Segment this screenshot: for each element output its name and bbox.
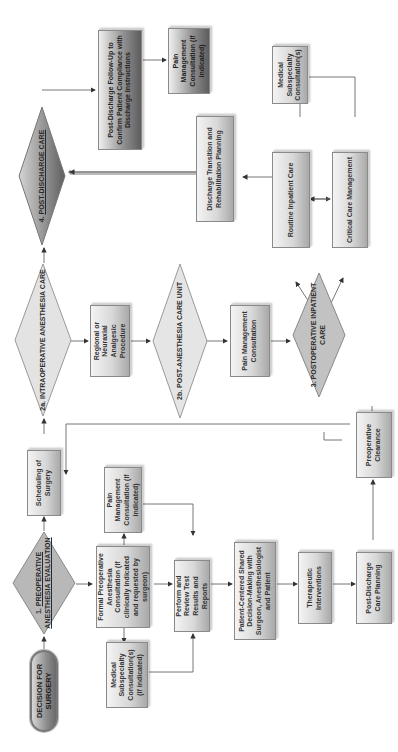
- phase-2b-post-anesthesia-care-unit: 2b. POST-ANESTHESIA CARE UNIT: [152, 263, 208, 419]
- therapeutic-interventions-box: Therapeutic Interventions: [298, 552, 332, 624]
- phase-4-post-discharge-care: 4. POST-DISCHARGE CARE: [18, 106, 66, 246]
- flowchart-canvas: DECISION FOR SURGERY 1. PREOPERATIVE ANE…: [0, 0, 398, 752]
- regional-neuraxial-procedure-box: Regional or Neuraxial Analgesic Procedur…: [90, 305, 130, 377]
- phase-2a-intraoperative-care: 2a. INTRAOPERATIVE ANESTHESIA CARE: [14, 263, 72, 417]
- discharge-transition-planning-box: Discharge Transition and Rehabilitation …: [196, 116, 234, 222]
- phase-3-label: POSTOPERATIVE INPATIENT CARE: [310, 283, 326, 380]
- pain-management-consultation-post-discharge-box: Pain Management Consultation (if indicat…: [168, 28, 210, 94]
- shared-decision-making-box: Patient-Centered Shared Decision-Making …: [234, 542, 276, 640]
- start-label: DECISION FOR SURGERY: [35, 652, 53, 730]
- phase-2b-label: POST-ANESTHESIA CARE UNIT: [176, 282, 183, 388]
- medical-subspecialty-consultation-preop-box: Medical Subspecialty Consultation(s) (if…: [106, 642, 148, 708]
- post-discharge-follow-up-box: Post-Discharge Follow-Up to Confirm Pati…: [98, 30, 142, 150]
- phase-1-preoperative-evaluation: 1. PREOPERATIVE ANESTHESIA EVALUATION: [12, 531, 76, 635]
- formal-preoperative-consultation-box: Formal Preoperative Anesthesia Consultat…: [96, 546, 150, 628]
- pain-management-consultation-preop-box: Pain Management Consultation (if indicat…: [104, 467, 142, 533]
- critical-care-management-box: Critical Care Management: [332, 152, 368, 248]
- scheduling-of-surgery-box: Scheduling of Surgery: [27, 450, 61, 516]
- routine-inpatient-care-box: Routine Inpatient Care: [272, 152, 310, 248]
- phase-4-label: POST-DISCHARGE CARE: [38, 130, 45, 215]
- phase-1-label: PREOPERATIVE ANESTHESIA EVALUATION: [35, 537, 51, 628]
- decision-for-surgery-start: DECISION FOR SURGERY: [30, 650, 58, 732]
- post-discharge-care-planning-box: Post-Discharge Care Planning: [356, 552, 392, 624]
- perform-review-test-results-box: Perform and Review Test Results and Repo…: [174, 560, 210, 632]
- medical-subspecialty-consultation-postop-box: Medical Subspecialty Consultation(s): [272, 46, 308, 104]
- pain-management-consultation-pacu-box: Pain Management Consultation: [230, 305, 270, 377]
- phase-3-postoperative-inpatient-care: 3. POSTOPERATIVE INPATIENT CARE: [292, 272, 346, 398]
- preoperative-clearance-box: Preoperative Clearance: [356, 412, 392, 478]
- phase-2a-label: INTRAOPERATIVE ANESTHESIA CARE: [39, 269, 46, 399]
